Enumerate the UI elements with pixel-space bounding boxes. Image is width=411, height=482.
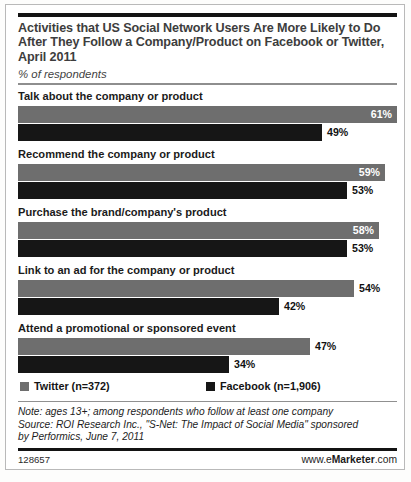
bar-value-twitter: 47% (315, 339, 336, 354)
note-line-1: Note: ages 13+; among respondents who fo… (18, 406, 397, 418)
bar-facebook (18, 182, 347, 199)
bar-row-facebook: 49% (18, 124, 397, 141)
bar-row-facebook: 53% (18, 182, 397, 199)
chart-frame: Activities that US Social Network Users … (5, 4, 405, 470)
bar-row-twitter: 61% (18, 106, 397, 123)
chart-subtitle: % of respondents (18, 68, 397, 80)
legend-label-facebook: Facebook (n=1,906) (220, 380, 321, 392)
legend-item-twitter: Twitter (n=372) (20, 380, 110, 392)
note-block: Note: ages 13+; among respondents who fo… (18, 406, 397, 443)
bar-group: Attend a promotional or sponsored event … (18, 322, 397, 373)
bar-value-facebook: 49% (327, 125, 348, 140)
chart-legend: Twitter (n=372) Facebook (n=1,906) (18, 380, 397, 396)
bar-value-twitter: 59% (359, 165, 380, 180)
top-rule (18, 13, 397, 17)
chart-footer: 128657 www.eMarketer.com (18, 454, 397, 468)
bar-row-facebook: 53% (18, 240, 397, 257)
legend-label-twitter: Twitter (n=372) (34, 380, 110, 392)
bar-twitter (18, 164, 385, 181)
emarketer-chart-figure: Activities that US Social Network Users … (0, 0, 411, 482)
bar-facebook (18, 240, 347, 257)
bar-group: Recommend the company or product 59% 53% (18, 148, 397, 199)
bar-value-twitter: 61% (371, 107, 392, 122)
bar-row-twitter: 59% (18, 164, 397, 181)
bottom-rule (18, 448, 397, 451)
brand-prefix: www.e (301, 454, 331, 465)
bar-value-facebook: 53% (352, 241, 373, 256)
bar-value-facebook: 53% (352, 183, 373, 198)
bar-chart-area: Talk about the company or product 61% 49… (18, 90, 397, 373)
bar-group: Link to an ad for the company or product… (18, 264, 397, 315)
bar-twitter (18, 222, 379, 239)
legend-swatch-facebook-icon (206, 382, 215, 391)
bar-twitter (18, 338, 310, 355)
bar-value-facebook: 42% (284, 299, 305, 314)
note-divider (18, 401, 397, 402)
bar-facebook (18, 298, 279, 315)
page-title: Activities that US Social Network Users … (18, 21, 397, 64)
brand-bold: Marketer (332, 454, 375, 465)
bar-group: Talk about the company or product 61% 49… (18, 90, 397, 141)
legend-swatch-twitter-icon (20, 382, 29, 391)
chart-inner: Activities that US Social Network Users … (18, 13, 397, 468)
note-line-3: by Performics, June 7, 2011 (18, 431, 397, 443)
subtitle-divider (18, 83, 397, 85)
bar-group: Purchase the brand/company's product 58%… (18, 206, 397, 257)
brand-suffix: .com (375, 454, 397, 465)
chart-id: 128657 (18, 454, 50, 465)
category-label: Attend a promotional or sponsored event (18, 322, 397, 335)
bar-row-facebook: 34% (18, 356, 397, 373)
bar-row-twitter: 54% (18, 280, 397, 297)
bar-twitter (18, 280, 354, 297)
category-label: Talk about the company or product (18, 90, 397, 103)
bar-row-twitter: 58% (18, 222, 397, 239)
legend-item-facebook: Facebook (n=1,906) (206, 380, 321, 392)
bar-value-twitter: 58% (353, 223, 374, 238)
note-line-2: Source: ROI Research Inc., "S-Net: The I… (18, 419, 397, 431)
category-label: Purchase the brand/company's product (18, 206, 397, 219)
category-label: Link to an ad for the company or product (18, 264, 397, 277)
bar-value-twitter: 54% (359, 281, 380, 296)
bar-row-facebook: 42% (18, 298, 397, 315)
bar-row-twitter: 47% (18, 338, 397, 355)
bar-facebook (18, 124, 322, 141)
bar-facebook (18, 356, 229, 373)
category-label: Recommend the company or product (18, 148, 397, 161)
bar-value-facebook: 34% (234, 357, 255, 372)
emarketer-brand: www.eMarketer.com (301, 454, 397, 465)
bar-twitter (18, 106, 397, 123)
